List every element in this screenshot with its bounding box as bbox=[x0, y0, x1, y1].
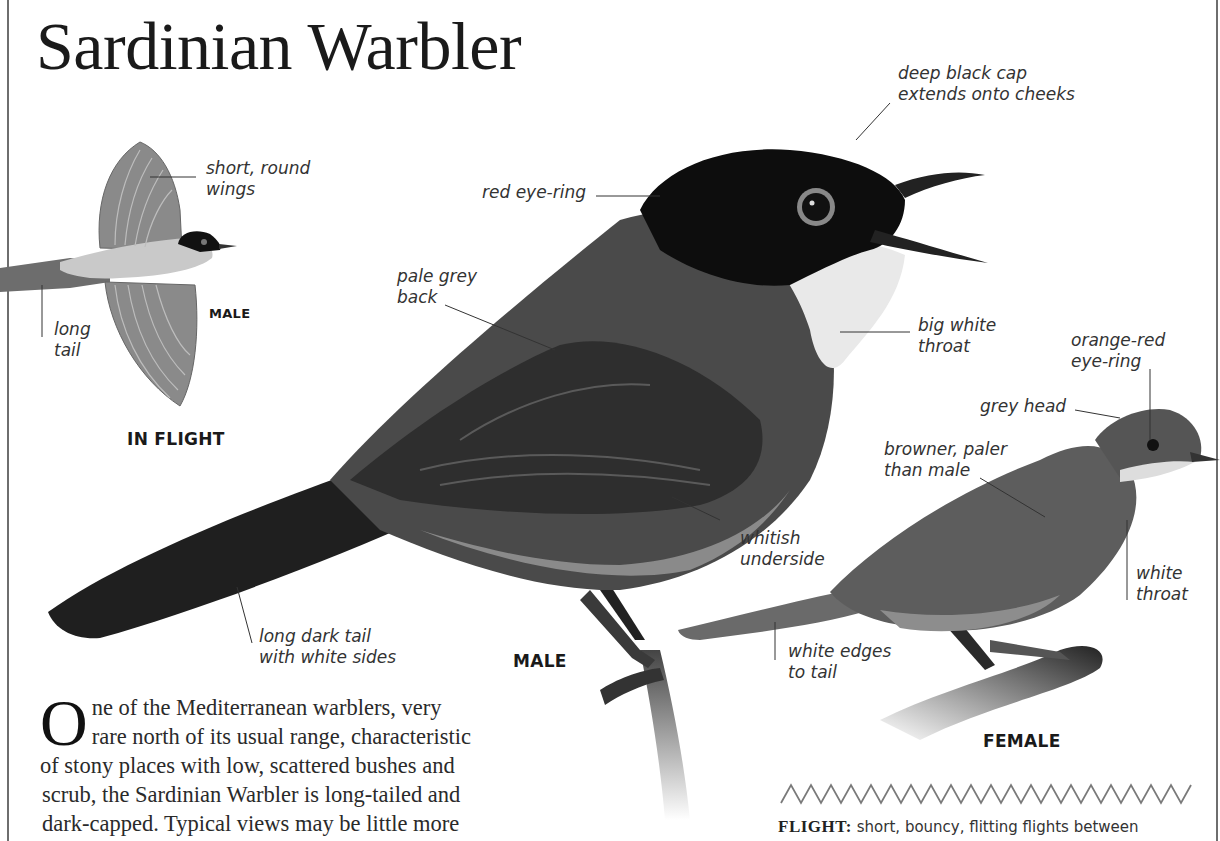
in-flight-caption: IN FLIGHT bbox=[127, 429, 225, 449]
male-caption: MALE bbox=[513, 651, 567, 671]
annotation-grey-head: grey head bbox=[980, 396, 1066, 417]
annotation-deep-black-cap: deep black cap extends onto cheeks bbox=[898, 63, 1075, 105]
species-description: O ne of the Mediterranean warblers, very… bbox=[42, 693, 552, 838]
description-line: rare north of its usual range, character… bbox=[42, 722, 552, 751]
description-line: scrub, the Sardinian Warbler is long-tai… bbox=[42, 780, 552, 809]
description-line: dark-capped. Typical views may be little… bbox=[42, 809, 552, 838]
drop-cap: O bbox=[40, 697, 88, 749]
in-flight-bird-illustration bbox=[0, 142, 237, 406]
annotation-orange-red-eye-ring: orange-red eye-ring bbox=[1071, 330, 1165, 372]
annotation-red-eye-ring: red eye-ring bbox=[482, 182, 586, 203]
description-line: ne of the Mediterranean warblers, very bbox=[42, 693, 552, 722]
female-caption: FEMALE bbox=[983, 731, 1061, 751]
annotation-browner-paler: browner, paler than male bbox=[884, 439, 1007, 481]
flight-label: FLIGHT: bbox=[778, 817, 852, 836]
annotation-whitish-underside: whitish underside bbox=[740, 528, 825, 570]
annotation-long-tail: long tail bbox=[54, 319, 91, 361]
annotation-short-round-wings: short, round wings bbox=[206, 158, 310, 200]
flight-description: FLIGHT: short, bouncy, flitting flights … bbox=[778, 817, 1139, 837]
in-flight-sex-label: MALE bbox=[209, 306, 250, 321]
description-line: of stony places with low, scattered bush… bbox=[40, 751, 552, 780]
annotation-white-throat: white throat bbox=[1136, 563, 1188, 605]
flight-text: short, bouncy, flitting flights between bbox=[852, 818, 1139, 836]
annotation-long-dark-tail: long dark tail with white sides bbox=[259, 626, 396, 668]
annotation-white-edges-to-tail: white edges to tail bbox=[788, 641, 891, 683]
annotation-pale-grey-back: pale grey back bbox=[397, 266, 477, 308]
zigzag-flight-pattern-icon bbox=[781, 785, 1191, 803]
annotation-big-white-throat: big white throat bbox=[918, 315, 996, 357]
